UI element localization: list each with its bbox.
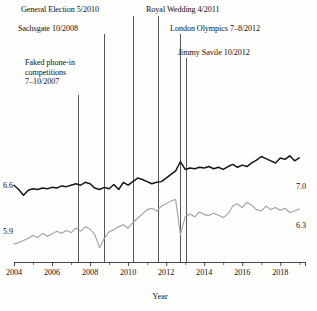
series-line-gray <box>14 200 299 248</box>
value-label-left-gray: 5.9 <box>3 227 13 236</box>
annotation-label-faked-phone-in: Faked phone-in competitions 7–10/2007 <box>25 58 91 87</box>
value-label-left-black: 6.6 <box>3 181 13 190</box>
annotation-label-sachsgate: Sachsgate 10/2008 <box>18 24 78 34</box>
x-tick-label-2014: 2014 <box>196 268 212 277</box>
annotation-label-general-election: General Election 5/2010 <box>21 5 99 15</box>
value-label-right-gray: 6.3 <box>296 221 306 230</box>
x-tick-label-2006: 2006 <box>44 268 60 277</box>
x-tick-label-2008: 2008 <box>82 268 98 277</box>
chart-canvas <box>0 0 317 311</box>
series-line-black <box>14 156 299 195</box>
x-tick-label-2016: 2016 <box>234 268 250 277</box>
annotation-label-jimmy-savile: Jimmy Savile 10/2012 <box>178 48 250 58</box>
chart-figure: Faked phone-in competitions 7–10/2007 Sa… <box>0 0 317 311</box>
x-tick-label-2018: 2018 <box>272 268 288 277</box>
x-tick-label-2012: 2012 <box>158 268 174 277</box>
annotation-label-london-olympics: London Olympics 7–8/2012 <box>170 24 260 34</box>
x-axis-group <box>14 262 306 266</box>
annotation-line-3: 7–10/2007 <box>25 77 59 86</box>
annotation-line-1: Faked phone-in <box>25 58 75 67</box>
series-lines-group <box>14 156 299 248</box>
x-tick-label-2010: 2010 <box>120 268 136 277</box>
value-label-right-black: 7.0 <box>296 182 306 191</box>
annotation-label-royal-wedding: Royal Wedding 4/2011 <box>146 5 219 15</box>
x-axis-title: Year <box>152 292 167 301</box>
annotation-lines-group <box>79 16 187 262</box>
x-tick-label-2004: 2004 <box>6 268 22 277</box>
annotation-line-2: competitions <box>25 68 66 77</box>
